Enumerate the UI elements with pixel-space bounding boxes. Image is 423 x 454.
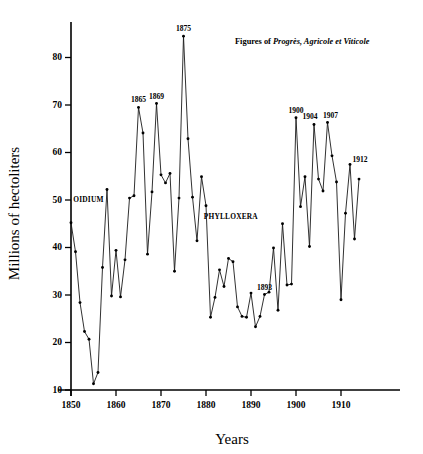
data-point [164,181,167,184]
data-point [124,258,127,261]
data-point [83,330,86,333]
data-point [335,181,338,184]
series-line [71,36,359,384]
data-point [313,123,316,126]
y-tick-label: 50 [53,195,63,205]
data-point [281,222,284,225]
y-tick-label: 20 [53,337,63,347]
data-point [227,257,230,260]
source-note-prefix: Figures of [235,37,273,46]
data-point [79,301,82,304]
data-point [191,196,194,199]
data-point [304,175,307,178]
data-point-markers [70,35,361,386]
data-point [214,296,217,299]
data-series [71,36,359,384]
wine-production-chart: 1020304050607080 18501860187018801890190… [0,0,423,454]
data-point [223,285,226,288]
y-tick-label: 30 [53,290,63,300]
peak-year-label: 1875 [176,24,191,33]
data-point [326,121,329,124]
y-tick-labels: 1020304050607080 [53,52,63,395]
y-tick-label: 80 [53,52,63,62]
axes [58,22,400,396]
data-point [322,190,325,193]
data-point [205,204,208,207]
data-point [182,35,185,38]
x-tick-label: 1900 [287,400,306,410]
peak-year-label: 1907 [323,111,338,120]
data-point [331,154,334,157]
data-point [317,178,320,181]
data-point [110,295,113,298]
x-tick-label: 1890 [242,400,261,410]
data-point [263,293,266,296]
data-point [218,268,221,271]
data-point [349,163,352,166]
data-point [353,238,356,241]
y-tick-label: 40 [53,242,63,252]
data-point [115,249,118,252]
data-point [290,283,293,286]
data-point [101,266,104,269]
data-point [142,132,145,135]
x-tick-labels: 1850186018701880189019001910 [62,400,351,410]
data-point [236,305,239,308]
data-point [92,382,95,385]
data-point [277,309,280,312]
data-point [70,221,73,224]
data-point [232,260,235,263]
data-point [187,137,190,140]
x-tick-label: 1850 [62,400,81,410]
x-tick-label: 1870 [152,400,171,410]
event-label-oidium: OIDIUM [73,195,103,204]
data-point [178,197,181,200]
data-point [299,205,302,208]
x-tick-label: 1880 [197,400,216,410]
data-point [308,245,311,248]
data-point [97,371,100,374]
data-point [151,190,154,193]
data-point [286,284,289,287]
y-tick-label: 10 [53,385,63,395]
source-note-journal: Progrès, Agricole et Viticole [273,37,369,46]
data-point [250,292,253,295]
data-point [241,315,244,318]
data-point [74,250,77,253]
peak-year-label: 1865 [131,95,146,104]
chart-plot-area: 1020304050607080 18501860187018801890190… [0,0,423,454]
data-point [160,173,163,176]
source-note: Figures of Progrès, Agricole et Viticole [235,37,369,46]
event-label-phylloxera: PHYLLOXERA [204,212,259,221]
data-point [128,197,131,200]
data-point [254,325,257,328]
x-axis-title: Years [215,431,249,447]
data-point [133,194,136,197]
y-tick-label: 60 [53,147,63,157]
data-point [119,295,122,298]
data-point [344,212,347,215]
x-tick-label: 1860 [107,400,126,410]
data-point [155,102,158,105]
event-annotations: OIDIUMPHYLLOXERA [73,195,258,221]
data-point [137,106,140,109]
data-point [358,178,361,181]
data-point [259,315,262,318]
data-point [88,338,91,341]
y-axis-title: Millions of hectoliters [6,114,23,314]
peak-year-label: 1904 [302,112,317,121]
peak-year-label: 1912 [352,155,367,164]
data-point [200,175,203,178]
data-point [340,298,343,301]
data-point [106,188,109,191]
data-point [146,253,149,256]
peak-year-label: 1869 [149,92,164,101]
data-point [245,316,248,319]
data-point [295,116,298,119]
data-point [196,239,199,242]
data-point [173,270,176,273]
y-tick-label: 70 [53,100,63,110]
data-point [209,316,212,319]
data-point [272,247,275,250]
x-tick-label: 1910 [332,400,351,410]
